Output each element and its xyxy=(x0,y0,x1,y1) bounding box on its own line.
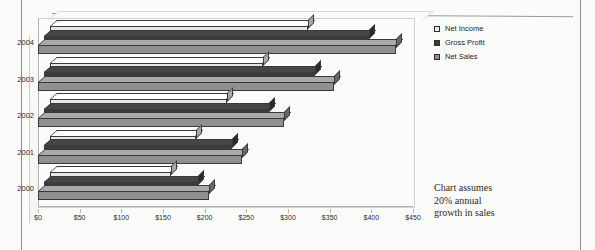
note-line-2: 20% annual xyxy=(434,195,495,208)
bar-net-sales-2004 xyxy=(38,45,396,54)
note-line-3: growth in sales xyxy=(434,207,495,220)
y-axis-label-2004: 2004 xyxy=(8,38,34,47)
note-line-1: Chart assumes xyxy=(434,182,495,195)
x-axis-tick xyxy=(413,209,414,213)
x-axis-tick xyxy=(288,209,289,213)
legend-item-net-income: Net Income xyxy=(434,24,485,33)
x-axis-line xyxy=(38,206,413,207)
legend-label-net-sales: Net Sales xyxy=(445,52,478,61)
legend-swatch-net-sales xyxy=(434,54,440,60)
page-canvas: $0$50$100$150$200$250$300$350$400$450 20… xyxy=(0,0,595,250)
x-axis-tick xyxy=(371,209,372,213)
x-axis-tick xyxy=(80,209,81,213)
bar-face xyxy=(38,45,396,54)
chart-annotation-note: Chart assumes 20% annual growth in sales xyxy=(434,182,495,220)
y-axis-label-2000: 2000 xyxy=(8,184,34,193)
x-axis-tick-label: $150 xyxy=(155,214,171,221)
bar-face xyxy=(38,118,284,127)
x-axis-tick xyxy=(330,209,331,213)
x-axis-tick xyxy=(163,209,164,213)
x-axis-tick-label: $250 xyxy=(239,214,255,221)
x-axis-tick-label: $100 xyxy=(114,214,130,221)
legend-item-net-sales: Net Sales xyxy=(434,52,485,61)
x-axis-tick-label: $400 xyxy=(364,214,380,221)
bar-face xyxy=(38,82,334,91)
x-axis-tick-label: $350 xyxy=(322,214,338,221)
x-axis-tick xyxy=(246,209,247,213)
bar-net-sales-2003 xyxy=(38,82,334,91)
y-axis-label-2001: 2001 xyxy=(8,148,34,157)
x-axis-tick-label: $450 xyxy=(405,214,421,221)
x-axis-tick-label: $200 xyxy=(197,214,213,221)
x-axis-tick-label: $300 xyxy=(280,214,296,221)
legend-label-gross-profit: Gross Profit xyxy=(445,38,485,47)
bar-face xyxy=(38,191,209,200)
legend-item-gross-profit: Gross Profit xyxy=(434,38,485,47)
bar-chart: $0$50$100$150$200$250$300$350$400$450 20… xyxy=(0,0,595,250)
y-axis-label-2002: 2002 xyxy=(8,111,34,120)
bar-face xyxy=(38,155,242,164)
legend-swatch-gross-profit xyxy=(434,40,440,46)
legend-swatch-net-income xyxy=(434,26,440,32)
bar-net-sales-2001 xyxy=(38,155,242,164)
chart-legend: Net Income Gross Profit Net Sales xyxy=(434,24,485,66)
x-axis-tick xyxy=(38,209,39,213)
legend-label-net-income: Net Income xyxy=(445,24,483,33)
bar-net-sales-2002 xyxy=(38,118,284,127)
x-axis-tick-label: $50 xyxy=(74,214,86,221)
x-axis-tick-label: $0 xyxy=(34,214,42,221)
y-axis-label-2003: 2003 xyxy=(8,75,34,84)
bar-net-sales-2000 xyxy=(38,191,209,200)
x-axis-tick xyxy=(121,209,122,213)
x-axis-tick xyxy=(205,209,206,213)
